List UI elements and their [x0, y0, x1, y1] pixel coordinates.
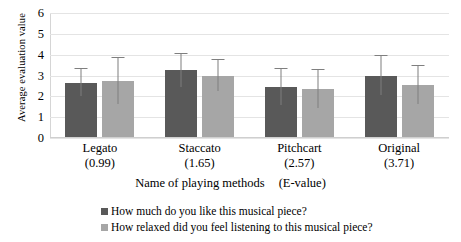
error-bar-cap-upper [75, 68, 88, 69]
legend-item-2[interactable]: How relaxed did you feel listening to th… [101, 219, 373, 235]
x-category-name: Pitchcart [250, 141, 350, 156]
x-category-legato: Legato(0.99) [50, 141, 150, 171]
bar-original-series2 [402, 13, 434, 138]
bar-chart: Average evaluation value 6543210 Legato(… [0, 0, 461, 242]
error-bar-cap-upper [175, 53, 188, 54]
y-tick-label-4: 4 [26, 50, 44, 60]
bar-group-original [349, 13, 449, 138]
error-bar-line [380, 56, 381, 96]
x-category-original: Original(3.71) [349, 141, 449, 171]
gridline-0 [50, 138, 449, 139]
x-category-evalue: (3.71) [349, 156, 449, 171]
y-tick-label-1: 1 [26, 112, 44, 122]
error-bar-cap-upper [212, 59, 225, 60]
error-bar-cap-upper [411, 65, 424, 66]
x-category-evalue: (0.99) [50, 156, 150, 171]
x-category-pitchcart: Pitchcart(2.57) [250, 141, 350, 171]
bar-group-legato [50, 13, 150, 138]
bar-staccato-series2 [202, 13, 234, 138]
y-tick-label-0: 0 [26, 133, 44, 143]
y-axis-tick-labels: 6543210 [24, 0, 44, 242]
y-tick-label-3: 3 [26, 71, 44, 81]
legend: How much do you like this musical piece?… [101, 203, 373, 235]
x-category-name: Staccato [150, 141, 250, 156]
y-tick-label-5: 5 [26, 29, 44, 39]
legend-label: How relaxed did you feel listening to th… [111, 221, 373, 233]
x-axis-line [50, 137, 449, 138]
bar-legato-series2 [102, 13, 134, 138]
error-bar-line [118, 58, 119, 104]
bar-original-series1 [365, 13, 397, 138]
error-bar-cap-upper [274, 68, 287, 69]
error-bar-line [81, 69, 82, 96]
x-axis-title-text: Name of playing methods [135, 176, 265, 190]
legend-label: How much do you like this musical piece? [111, 205, 307, 217]
legend-item-1[interactable]: How much do you like this musical piece? [101, 203, 373, 219]
error-bar-line [280, 69, 281, 104]
x-axis-title: Name of playing methods(E-value) [0, 176, 461, 191]
legend-swatch-icon [101, 208, 108, 215]
plot-area [50, 13, 449, 138]
error-bar-line [218, 60, 219, 91]
x-category-name: Legato [50, 141, 150, 156]
error-bar-cap-upper [311, 69, 324, 70]
x-category-name: Original [349, 141, 449, 156]
error-bar-line [417, 66, 418, 104]
y-tick-label-6: 6 [26, 8, 44, 18]
y-tick-label-2: 2 [26, 91, 44, 101]
x-category-evalue: (2.57) [250, 156, 350, 171]
bar-pitchcart-series2 [302, 13, 334, 138]
error-bar-cap-upper [112, 57, 125, 58]
error-bar-cap-upper [374, 55, 387, 56]
x-category-evalue: (1.65) [150, 156, 250, 171]
x-category-staccato: Staccato(1.65) [150, 141, 250, 171]
legend-swatch-icon [101, 224, 108, 231]
bar-pitchcart-series1 [265, 13, 297, 138]
error-bar-line [317, 70, 318, 108]
bar-staccato-series1 [165, 13, 197, 138]
bar-group-pitchcart [250, 13, 350, 138]
error-bar-line [181, 54, 182, 87]
bar-legato-series1 [65, 13, 97, 138]
x-axis-title-unit: (E-value) [265, 176, 326, 190]
bar-group-staccato [150, 13, 250, 138]
